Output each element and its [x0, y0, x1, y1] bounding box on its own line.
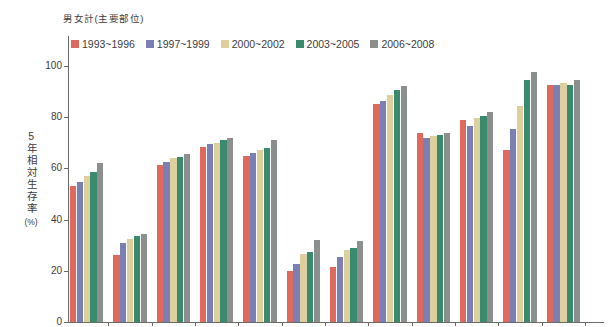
- legend-label: 2006~2008: [381, 38, 434, 50]
- bar: [271, 140, 277, 322]
- bar: [177, 157, 183, 322]
- bar: [394, 90, 400, 322]
- x-tick-mark: [325, 323, 326, 326]
- bar: [70, 186, 76, 322]
- legend-item: 1997~1999: [146, 38, 210, 50]
- legend: 1993~1996 1997~1999 2000~2002 2003~2005 …: [71, 38, 434, 50]
- legend-label: 2000~2002: [232, 38, 285, 50]
- y-tick-label: 0: [34, 317, 62, 327]
- bar: [307, 252, 313, 322]
- bar: [134, 236, 140, 322]
- bar: [517, 106, 523, 322]
- bar: [430, 136, 436, 322]
- x-tick-mark: [455, 323, 456, 326]
- bar: [184, 154, 190, 322]
- bar: [113, 255, 119, 322]
- bar: [77, 182, 83, 322]
- y-axis-title: 5年相対生存率 (%): [23, 130, 39, 227]
- y-tick-label: 60: [34, 163, 62, 173]
- bar: [220, 140, 226, 322]
- legend-swatch: [71, 40, 79, 48]
- legend-item: 2003~2005: [296, 38, 360, 50]
- bar: [214, 143, 220, 322]
- bar: [437, 135, 443, 322]
- x-tick-mark: [542, 323, 543, 326]
- y-tick-label: 100: [34, 61, 62, 71]
- x-tick-mark: [498, 323, 499, 326]
- x-tick-mark: [412, 323, 413, 326]
- bar: [300, 254, 306, 322]
- bar: [510, 129, 516, 322]
- bar: [344, 250, 350, 322]
- bar: [574, 80, 580, 322]
- bar: [257, 150, 263, 322]
- bar: [467, 126, 473, 322]
- y-tick-label: 80: [34, 112, 62, 122]
- chart-title: 男女計(主要部位): [63, 11, 144, 25]
- bar: [503, 150, 509, 322]
- bar: [380, 101, 386, 322]
- x-tick-mark: [368, 323, 369, 326]
- bar: [264, 148, 270, 322]
- bar: [480, 116, 486, 322]
- legend-label: 1997~1999: [157, 38, 210, 50]
- bar: [90, 172, 96, 322]
- bar: [524, 80, 530, 322]
- bar: [547, 85, 553, 322]
- x-tick-mark: [282, 323, 283, 326]
- legend-swatch: [370, 40, 378, 48]
- survival-rate-bar-chart: 男女計(主要部位) 1993~1996 1997~1999 2000~2002 …: [0, 0, 610, 327]
- bar: [207, 144, 213, 322]
- bar: [200, 147, 206, 322]
- x-tick-mark: [238, 323, 239, 326]
- plot-area: [69, 66, 609, 322]
- y-tick-mark: [64, 322, 69, 323]
- bar: [401, 86, 407, 322]
- bar: [373, 104, 379, 322]
- bar: [120, 243, 126, 322]
- bar: [250, 153, 256, 322]
- bar: [560, 83, 566, 322]
- x-tick-mark: [195, 323, 196, 326]
- bar: [337, 257, 343, 322]
- x-axis-line: [64, 322, 604, 323]
- x-tick-mark: [108, 323, 109, 326]
- bar: [444, 133, 450, 322]
- bar: [287, 271, 293, 322]
- x-tick-mark: [585, 323, 586, 326]
- bar: [417, 133, 423, 322]
- y-tick-label: 20: [34, 266, 62, 276]
- bar: [227, 138, 233, 322]
- bar: [163, 162, 169, 322]
- bar: [84, 176, 90, 322]
- legend-swatch: [221, 40, 229, 48]
- bar: [243, 156, 249, 322]
- bar: [350, 248, 356, 322]
- legend-label: 2003~2005: [307, 38, 360, 50]
- bar: [127, 239, 133, 322]
- x-tick-mark: [152, 323, 153, 326]
- bar: [170, 158, 176, 322]
- bar: [474, 118, 480, 322]
- legend-swatch: [296, 40, 304, 48]
- bar: [97, 163, 103, 322]
- bar: [357, 241, 363, 322]
- bar: [460, 120, 466, 322]
- bar: [567, 85, 573, 322]
- bar: [553, 85, 559, 322]
- legend-item: 2000~2002: [221, 38, 285, 50]
- bar: [157, 165, 163, 322]
- legend-label: 1993~1996: [82, 38, 135, 50]
- bar: [387, 95, 393, 322]
- bar: [423, 138, 429, 322]
- bar: [487, 112, 493, 322]
- bar: [314, 240, 320, 322]
- y-tick-label: 40: [34, 215, 62, 225]
- legend-item: 1993~1996: [71, 38, 135, 50]
- legend-item: 2006~2008: [370, 38, 434, 50]
- bar: [293, 264, 299, 322]
- legend-swatch: [146, 40, 154, 48]
- bar: [141, 234, 147, 322]
- bar: [531, 72, 537, 322]
- bar: [330, 267, 336, 322]
